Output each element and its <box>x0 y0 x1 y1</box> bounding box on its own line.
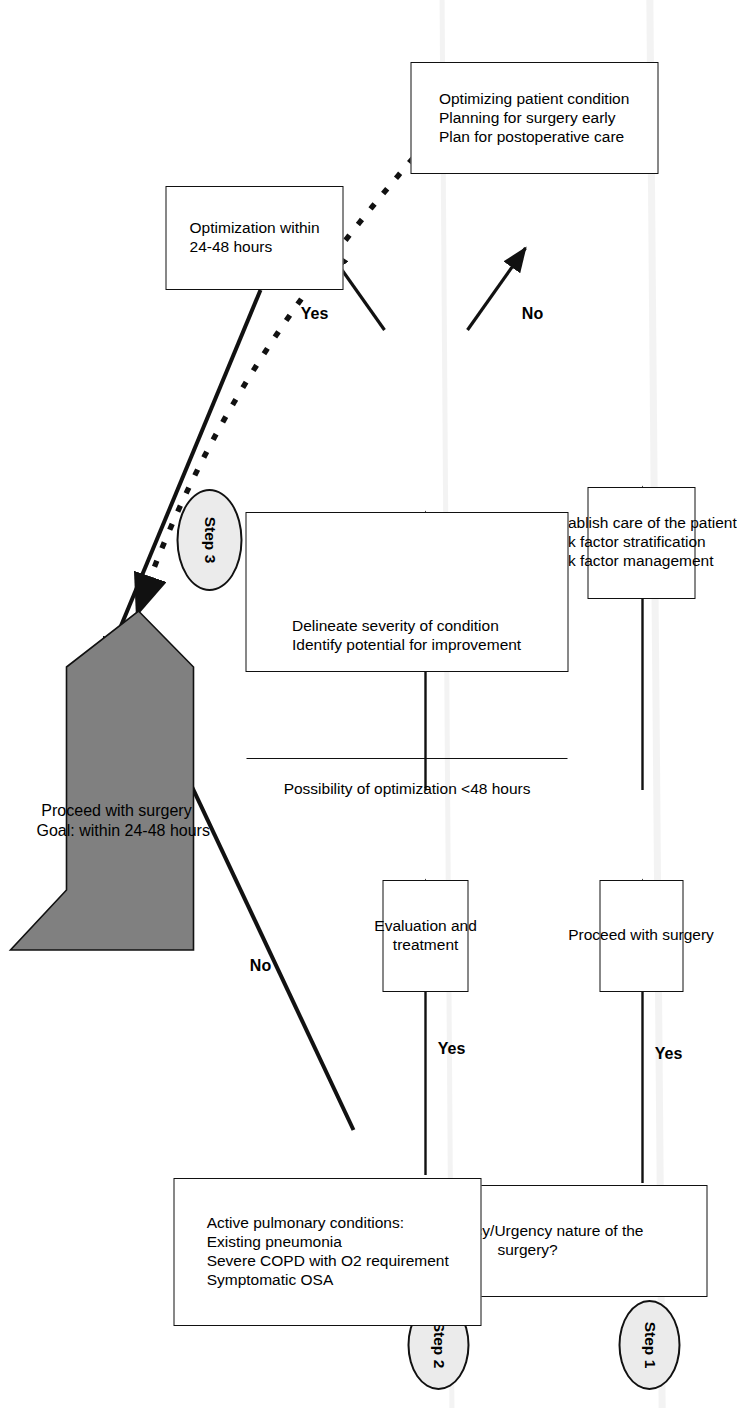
pulmonary-line-1: Active pulmonary conditions: <box>206 1214 448 1233</box>
proceed-with-surgery-box[interactable]: Proceed with surgery <box>599 880 683 992</box>
edge-label-pulmonary-no: No <box>249 957 270 975</box>
establish-line-1: Establish care of the patient <box>545 515 736 534</box>
step-3-label: Step 3 <box>200 517 218 564</box>
edge-label-emergency-yes: Yes <box>654 1045 682 1063</box>
optimizing-line-2: Planning for surgery early <box>439 109 629 128</box>
optimization-window-line-1: Optimization within <box>189 219 319 238</box>
optimizing-line-3: Plan for postoperative care <box>439 127 629 146</box>
establish-line-2: Risk factor stratification <box>545 534 736 553</box>
goal-arrow-text: Proceed with surgery Goal: within 24-48 … <box>96 741 136 901</box>
delineate-line-1: Delineate severity of condition <box>292 617 521 636</box>
optimizing-patient-condition-box[interactable]: Optimizing patient condition Planning fo… <box>410 62 658 174</box>
evaluation-and-treatment-box[interactable]: Evaluation and treatment <box>382 880 468 992</box>
possibility-of-optimization-section: Possibility of optimization <48 hours <box>246 758 567 819</box>
optimization-within-24-48-hours-box[interactable]: Optimization within 24-48 hours <box>165 186 343 290</box>
step-3-ellipse: Step 3 <box>176 489 242 591</box>
pulmonary-line-4: Symptomatic OSA <box>206 1271 448 1290</box>
possibility-line-1: Possibility of optimization <48 hours <box>283 780 530 799</box>
goal-line-2: Goal: within 24-48 hours <box>36 821 196 841</box>
pulmonary-line-3: Severe COPD with O2 requirement <box>206 1252 448 1271</box>
edge-optimization-to-goal <box>103 290 260 668</box>
proceed-line-1: Proceed with surgery <box>568 927 714 946</box>
edge-label-optimization-no: No <box>521 305 542 323</box>
establish-care-box[interactable]: Establish care of the patient Risk facto… <box>587 487 695 599</box>
edge-optimization-no <box>467 248 525 330</box>
pulmonary-line-2: Existing pneumonia <box>206 1233 448 1252</box>
establish-line-3: Risk factor management <box>545 552 736 571</box>
delineate-line-2: Identify potential for improvement <box>292 636 521 655</box>
step-1-label: Step 1 <box>640 1322 658 1369</box>
goal-line-1: Proceed with surgery <box>36 801 196 821</box>
evaluation-line-2: treatment <box>374 936 477 955</box>
step-1-ellipse: Step 1 <box>618 1300 680 1390</box>
active-pulmonary-conditions-box[interactable]: Active pulmonary conditions: Existing pn… <box>173 1178 481 1326</box>
delineate-severity-box[interactable]: Delineate severity of condition Identify… <box>245 512 568 672</box>
step-2-label: Step 2 <box>429 1322 447 1369</box>
optimizing-line-1: Optimizing patient condition <box>439 90 629 109</box>
delineate-severity-section: Delineate severity of condition Identify… <box>246 513 567 758</box>
edge-label-pulmonary-yes: Yes <box>437 1040 465 1058</box>
edge-label-optimization-yes: Yes <box>300 305 328 323</box>
evaluation-line-1: Evaluation and <box>374 917 477 936</box>
optimization-window-line-2: 24-48 hours <box>189 238 319 257</box>
